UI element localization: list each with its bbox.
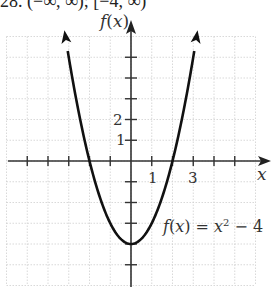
function-equation-label: f(x) = x2 − 4 <box>162 217 263 236</box>
x-axis-label: x <box>257 164 267 184</box>
y-axis-label: f(x) <box>98 11 129 31</box>
curve-arrow-right-icon <box>191 30 201 44</box>
y-tick-label-1: 1 <box>116 131 126 149</box>
y-tick-label-2: 2 <box>113 111 123 129</box>
y-axis <box>126 20 136 287</box>
x-tick-label-3: 3 <box>188 169 198 187</box>
graph-figure: 28. (−∞, ∞); [−4, ∞) f(x) x 1 3 1 2 f(x)… <box>0 0 278 304</box>
x-tick-label-1: 1 <box>148 169 158 187</box>
function-graph: f(x) x 1 3 1 2 f(x) = x2 − 4 <box>0 0 278 304</box>
curve-arrow-left-icon <box>61 30 71 44</box>
